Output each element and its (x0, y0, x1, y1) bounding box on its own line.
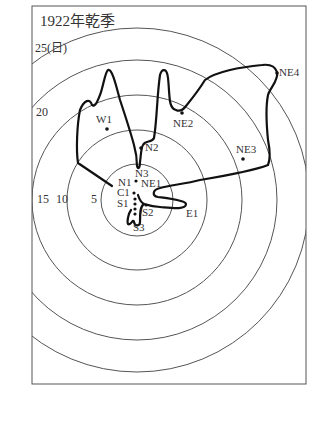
station-label-NE2: NE2 (173, 118, 193, 129)
station-label-S3: S3 (133, 222, 145, 233)
ring-label-20: 20 (36, 106, 48, 118)
station-label-NE4: NE4 (279, 67, 299, 78)
station-dot-NE3 (241, 157, 245, 161)
figure-title: 1922年乾季 (40, 9, 115, 30)
station-label-S2: S2 (142, 207, 154, 218)
frame (32, 6, 306, 384)
station-label-NE3: NE3 (236, 144, 256, 155)
station-dot-S1a (133, 197, 136, 200)
station-dot-N1 (134, 179, 137, 182)
station-dot-S1c (133, 207, 136, 210)
ring-label-15: 15 (37, 193, 49, 205)
station-label-N2: N2 (145, 142, 158, 153)
diagram-canvas (0, 0, 320, 437)
ring-label-25: 25(日) (35, 42, 67, 54)
station-dot-W1 (105, 127, 109, 131)
ring-label-5: 5 (91, 193, 97, 205)
station-dot-S1b (133, 202, 136, 205)
station-label-W1: W1 (96, 114, 112, 125)
station-dot-NE2 (180, 111, 184, 115)
station-dot-S1d (133, 212, 136, 215)
station-label-E1: E1 (186, 208, 198, 219)
ring-10 (67, 130, 207, 270)
station-label-S1: S1 (117, 198, 129, 209)
station-label-NE1: NE1 (141, 178, 161, 189)
station-dot-C1 (132, 191, 135, 194)
station-dot-N2 (139, 146, 143, 150)
isochrone-diagram: 1922年乾季 25(日) 20 15 10 5 W1 N2 NE2 NE4 N… (0, 0, 320, 437)
ring-label-10: 10 (56, 193, 68, 205)
